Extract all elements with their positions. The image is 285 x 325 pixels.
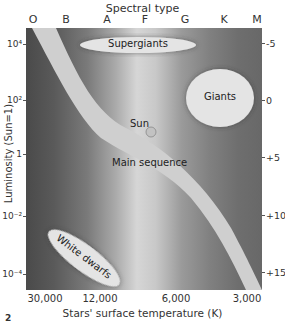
temperature-tick-6000: 6,000	[162, 293, 191, 304]
figure-number: 2	[5, 313, 11, 323]
tick-mark	[262, 43, 265, 44]
magnitude-tick-0: 0	[266, 95, 272, 106]
temperature-tick-3000: 3,000	[233, 293, 262, 304]
tick-mark	[23, 154, 26, 155]
sun-label: Sun	[130, 118, 149, 129]
spectral-label-b: B	[62, 13, 70, 26]
tick-mark	[262, 272, 265, 273]
tick-mark	[262, 157, 265, 158]
temperature-tick-12000: 12,000	[83, 293, 118, 304]
magnitude-tick-minus5: -5	[266, 38, 275, 49]
luminosity-tick-1e-2: 10⁻²	[0, 211, 22, 221]
magnitude-tick-plus10: +10	[266, 210, 285, 221]
spectral-label-g: G	[181, 13, 190, 26]
tick-mark	[262, 215, 265, 216]
luminosity-tick-1e4: 10⁴	[0, 39, 22, 49]
luminosity-tick-1e-4: 10⁻⁴	[0, 269, 22, 279]
giants-label: Giants	[204, 91, 236, 102]
magnitude-tick-plus15: +15	[266, 267, 285, 278]
tick-mark	[262, 100, 265, 101]
tick-mark	[23, 216, 26, 217]
tick-mark	[23, 274, 26, 275]
temperature-tick-30000: 30,000	[28, 293, 63, 304]
plot-area: Supergiants Giants Sun Main sequence Whi…	[26, 28, 262, 290]
temperature-axis-title: Stars' surface temperature (K)	[0, 307, 285, 319]
spectral-label-o: O	[29, 13, 38, 26]
spectral-label-k: K	[220, 13, 227, 26]
magnitude-tick-plus5: +5	[266, 152, 280, 163]
main-sequence-label: Main sequence	[112, 157, 187, 168]
luminosity-axis-title: Luminosity (Sun=1)	[3, 104, 14, 204]
supergiants-label: Supergiants	[108, 38, 168, 49]
tick-mark	[23, 100, 26, 101]
tick-mark	[23, 44, 26, 45]
spectral-label-f: F	[142, 13, 148, 26]
spectral-label-m: M	[252, 13, 262, 26]
spectral-label-a: A	[103, 13, 111, 26]
